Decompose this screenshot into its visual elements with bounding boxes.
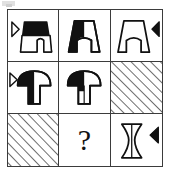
puzzle-cell-r3c3[interactable] bbox=[111, 114, 162, 166]
puzzle-cell-r1c3[interactable] bbox=[111, 10, 162, 62]
outlined-right-triangle-marker bbox=[12, 22, 19, 37]
filled-left-triangle-marker bbox=[150, 127, 158, 143]
puzzle-cell-r2c1[interactable] bbox=[8, 62, 59, 114]
outlined-right-triangle-marker bbox=[10, 73, 17, 87]
puzzle-cell-r3c2[interactable]: ? bbox=[59, 114, 110, 166]
arch-shape-full-black bbox=[21, 22, 52, 52]
puzzle-cell-r2c3[interactable] bbox=[111, 62, 162, 114]
puzzle-grid: ? bbox=[7, 9, 163, 167]
mushroom-shape-left-half-black bbox=[18, 71, 51, 104]
diagonal-hatch-fill bbox=[111, 62, 162, 113]
filled-left-triangle-marker bbox=[152, 22, 159, 37]
arch-shape-white bbox=[118, 21, 149, 52]
diagonal-hatch-fill bbox=[8, 114, 58, 166]
matrix-puzzle-image: ? bbox=[0, 0, 170, 175]
arch-shape-left-half-black bbox=[69, 21, 100, 52]
question-mark: ? bbox=[59, 114, 109, 166]
puzzle-cell-r3c1[interactable] bbox=[8, 114, 59, 166]
mushroom-shape-cap-left-black bbox=[68, 71, 101, 104]
puzzle-cell-r2c2[interactable] bbox=[59, 62, 110, 114]
cropped-label-artifact-fragment bbox=[6, 4, 12, 7]
puzzle-cell-r1c2[interactable] bbox=[59, 10, 110, 62]
spool-hourglass-shape bbox=[122, 124, 142, 158]
puzzle-cell-r1c1[interactable] bbox=[8, 10, 59, 62]
cropped-label-artifact bbox=[2, 1, 15, 6]
